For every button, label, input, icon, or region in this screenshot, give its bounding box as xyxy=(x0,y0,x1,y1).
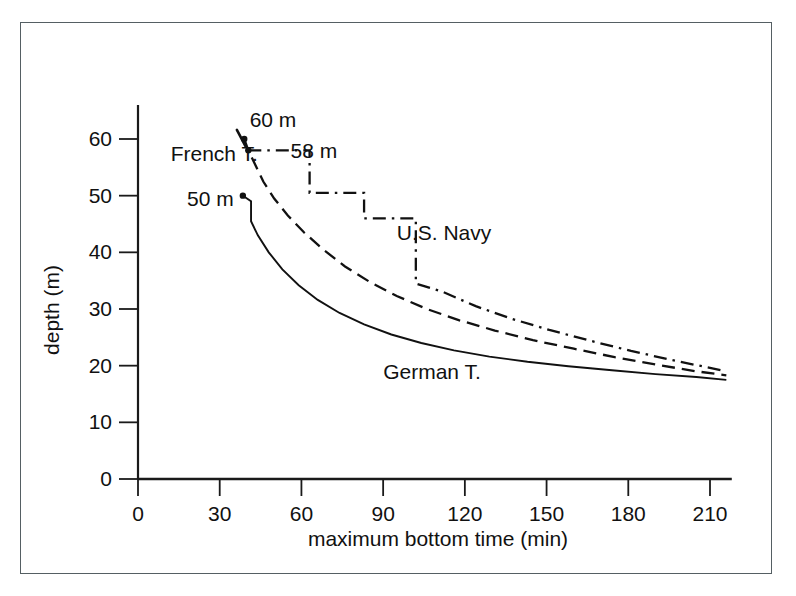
chart-annotation: 60 m xyxy=(250,108,297,132)
chart-annotation: 50 m xyxy=(187,187,234,211)
x-axis-tick-label: 60 xyxy=(290,502,313,526)
x-axis-tick-label: 0 xyxy=(132,502,144,526)
y-axis-tick-label: 40 xyxy=(76,240,112,264)
x-axis-tick-label: 150 xyxy=(529,502,564,526)
figure-border xyxy=(20,22,772,574)
x-axis-tick-label: 180 xyxy=(611,502,646,526)
figure-container: 01020304050600306090120150180210 maximum… xyxy=(0,0,796,596)
chart-annotation: German T. xyxy=(383,360,481,384)
x-axis-tick-label: 120 xyxy=(447,502,482,526)
x-axis-tick-label: 30 xyxy=(208,502,231,526)
chart-annotation: French T. xyxy=(171,142,258,166)
y-axis-tick-label: 60 xyxy=(76,127,112,151)
x-axis-tick-label: 90 xyxy=(371,502,394,526)
y-axis-tick-label: 30 xyxy=(76,297,112,321)
y-axis-title: depth (m) xyxy=(40,265,64,355)
y-axis-tick-label: 10 xyxy=(76,410,112,434)
chart-annotation: 58 m xyxy=(291,139,338,163)
x-axis-tick-label: 210 xyxy=(692,502,727,526)
x-axis-title: maximum bottom time (min) xyxy=(308,527,568,551)
chart-annotation: U.S. Navy xyxy=(397,221,492,245)
y-axis-tick-label: 20 xyxy=(76,354,112,378)
y-axis-tick-label: 0 xyxy=(76,467,112,491)
y-axis-tick-label: 50 xyxy=(76,184,112,208)
